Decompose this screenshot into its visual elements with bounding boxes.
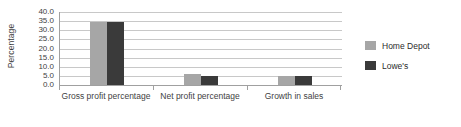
legend-swatch-home-depot (365, 41, 376, 50)
y-axis-tick-label: 0.0 (43, 81, 54, 89)
y-axis-tick-label: 5.0 (43, 72, 54, 80)
bar[interactable] (184, 74, 201, 85)
y-axis-tick-label: 35.0 (38, 17, 54, 25)
legend-item-label: Lowe's (382, 61, 408, 71)
bar-group (154, 12, 248, 85)
y-axis-title: Percentage (0, 0, 22, 92)
x-axis-category-label: Net profit percentage (153, 91, 247, 102)
x-axis-category-labels: Gross profit percentageNet profit percen… (59, 91, 341, 121)
x-axis-category-label: Gross profit percentage (59, 91, 153, 102)
x-axis-tick (153, 85, 154, 90)
x-axis-tick (59, 85, 60, 90)
y-axis-tick-label: 10.0 (38, 63, 54, 71)
y-axis-tick-label: 25.0 (38, 35, 54, 43)
legend-item-label: Home Depot (382, 41, 430, 51)
y-axis-title-label: Percentage (6, 24, 16, 68)
bar[interactable] (90, 22, 107, 86)
y-axis-tick-label: 15.0 (38, 54, 54, 62)
legend-item[interactable]: Lowe's (365, 58, 461, 73)
legend-swatch-lowes (365, 61, 376, 70)
x-axis-tick (340, 85, 341, 90)
bar[interactable] (295, 76, 312, 85)
y-axis-tick-label: 20.0 (38, 45, 54, 53)
bars-layer (60, 12, 342, 85)
legend: Home DepotLowe's (365, 38, 461, 78)
bar[interactable] (201, 76, 218, 85)
y-axis-tick-labels: 40.035.030.025.020.015.010.05.00.0 (22, 12, 57, 85)
x-axis-category-label: Growth in sales (247, 91, 341, 102)
bar-group (60, 12, 154, 85)
x-axis-tick (247, 85, 248, 90)
bar-chart: Percentage 40.035.030.025.020.015.010.05… (0, 0, 461, 127)
x-axis-ticks (59, 85, 341, 90)
y-axis-tick-label: 40.0 (38, 8, 54, 16)
y-axis-tick-label: 30.0 (38, 26, 54, 34)
bar[interactable] (278, 76, 295, 85)
legend-item[interactable]: Home Depot (365, 38, 461, 53)
bar[interactable] (107, 22, 124, 86)
bar-group (248, 12, 342, 85)
plot-area (59, 12, 342, 85)
